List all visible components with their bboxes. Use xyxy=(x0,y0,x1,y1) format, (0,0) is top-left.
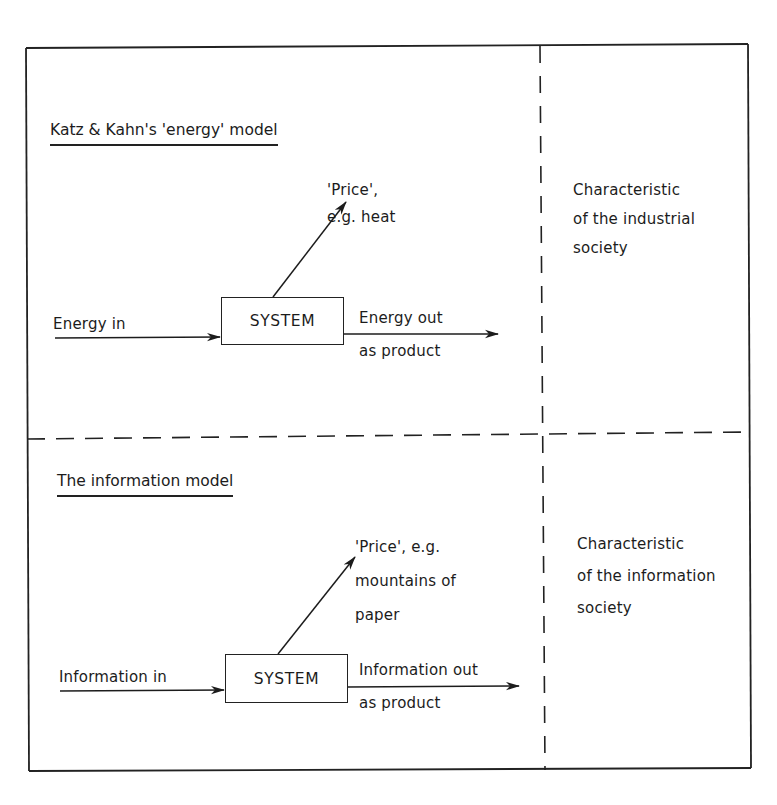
information-characteristic-line-3: society xyxy=(577,592,716,624)
information-output-label-line-1: Information out xyxy=(359,657,478,684)
energy-price-label: 'Price', e.g. heat xyxy=(327,177,396,231)
energy-characteristic-label: Characteristic of the industrial society xyxy=(573,176,695,263)
information-price-line-1: 'Price', e.g. xyxy=(355,530,456,564)
energy-output-label-line-1: Energy out xyxy=(359,305,443,332)
figure-canvas: Katz & Kahn's 'energy' model 'Price', e.… xyxy=(0,0,777,805)
information-output-arrow-icon xyxy=(348,686,519,687)
information-price-label: 'Price', e.g. mountains of paper xyxy=(355,530,456,632)
energy-price-line-1: 'Price', xyxy=(327,177,396,204)
energy-input-label: Energy in xyxy=(53,311,126,338)
energy-system-box: SYSTEM xyxy=(221,297,344,345)
information-characteristic-line-1: Characteristic xyxy=(577,528,716,560)
energy-model-heading: Katz & Kahn's 'energy' model xyxy=(50,121,278,146)
information-characteristic-line-2: of the information xyxy=(577,560,716,592)
energy-price-line-2: e.g. heat xyxy=(327,204,396,231)
energy-characteristic-line-3: society xyxy=(573,234,695,263)
information-input-label: Information in xyxy=(59,664,167,691)
information-model-heading: The information model xyxy=(57,472,233,497)
energy-output-label-line-2: as product xyxy=(359,338,440,365)
information-price-line-2: mountains of xyxy=(355,564,456,598)
energy-characteristic-line-1: Characteristic xyxy=(573,176,695,205)
information-system-box: SYSTEM xyxy=(225,654,348,703)
information-output-label-line-2: as product xyxy=(359,690,440,717)
energy-characteristic-line-2: of the industrial xyxy=(573,205,695,234)
energy-system-label: SYSTEM xyxy=(250,312,315,330)
information-price-arrow-icon xyxy=(278,557,355,654)
information-price-line-3: paper xyxy=(355,598,456,632)
horizontal-divider-dashed xyxy=(27,432,750,439)
vertical-divider-dashed xyxy=(540,46,545,770)
information-characteristic-label: Characteristic of the information societ… xyxy=(577,528,716,624)
information-system-label: SYSTEM xyxy=(254,670,319,688)
